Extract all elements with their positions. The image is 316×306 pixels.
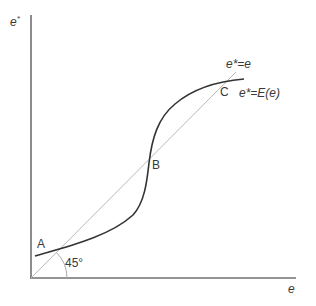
forty-five-line-label: e*=e bbox=[226, 57, 251, 71]
x-axis-label: e bbox=[288, 282, 295, 296]
y-axis-label: e* bbox=[10, 14, 21, 29]
forty-five-degree-line bbox=[31, 72, 236, 278]
expectations-curve bbox=[35, 79, 244, 256]
point-c-label: C bbox=[220, 85, 229, 99]
angle-label: 45° bbox=[65, 256, 83, 270]
diagram-canvas: e* e e*=e e*=E(e) A B C 45° bbox=[0, 0, 316, 306]
point-a-label: A bbox=[37, 237, 45, 251]
point-b-label: B bbox=[152, 158, 160, 172]
curve-label: e*=E(e) bbox=[239, 86, 280, 100]
